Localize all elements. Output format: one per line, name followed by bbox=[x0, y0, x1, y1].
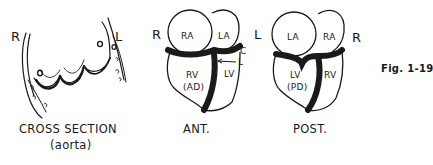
anterior-ra-label: RA bbox=[181, 31, 194, 41]
anterior-l-marker: L bbox=[238, 57, 243, 67]
posterior-rv-label: RV bbox=[324, 70, 337, 80]
aorta-cross-section-drawing bbox=[22, 18, 126, 118]
anterior-rv-label: RV bbox=[186, 70, 199, 80]
cross-section-subcaption: (aorta) bbox=[50, 138, 91, 152]
anterior-la-label: LA bbox=[218, 31, 230, 41]
posterior-heart-drawing bbox=[272, 11, 344, 111]
posterior-ra-label: RA bbox=[323, 32, 336, 42]
anterior-c-marker: C bbox=[240, 46, 247, 56]
cross-section-caption: CROSS SECTION bbox=[19, 122, 117, 136]
anterior-heart-drawing bbox=[167, 10, 240, 111]
cross-section-left-label: L bbox=[115, 29, 123, 44]
figure-label: Fig. 1-19 bbox=[381, 63, 433, 74]
posterior-la-label: LA bbox=[287, 32, 299, 42]
posterior-lv-sublabel: (PD) bbox=[287, 82, 308, 92]
posterior-caption: POST. bbox=[293, 122, 327, 136]
posterior-lv-label: LV bbox=[290, 70, 301, 80]
anterior-caption: ANT. bbox=[183, 122, 210, 136]
cross-section-right-label: R bbox=[11, 29, 20, 44]
anterior-lv-label: LV bbox=[224, 69, 235, 79]
anterior-right-label: R bbox=[152, 27, 161, 42]
anterior-rv-sublabel: (AD) bbox=[183, 82, 204, 92]
posterior-right-label: R bbox=[352, 30, 361, 45]
anterior-left-label: L bbox=[254, 27, 262, 42]
